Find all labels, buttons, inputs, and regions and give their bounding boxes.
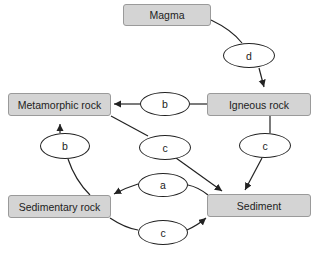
node-igneous-rock: Igneous rock: [207, 93, 311, 116]
process-d-magma-igneous: d: [223, 43, 275, 68]
process-c-igneous-sediment: c: [239, 133, 291, 158]
process-b-sedimentary-metamorphic: b: [40, 133, 90, 159]
node-sediment: Sediment: [207, 194, 311, 217]
process-c-metamorphic-sediment: c: [139, 135, 191, 160]
node-magma: Magma: [123, 4, 211, 26]
process-a-sediment-sedimentary: a: [138, 173, 188, 197]
process-b-igneous-metamorphic: b: [140, 92, 190, 116]
process-c-sedimentary-sediment: c: [138, 220, 188, 245]
node-sedimentary-rock: Sedimentary rock: [8, 195, 111, 218]
node-metamorphic-rock: Metamorphic rock: [8, 93, 111, 116]
